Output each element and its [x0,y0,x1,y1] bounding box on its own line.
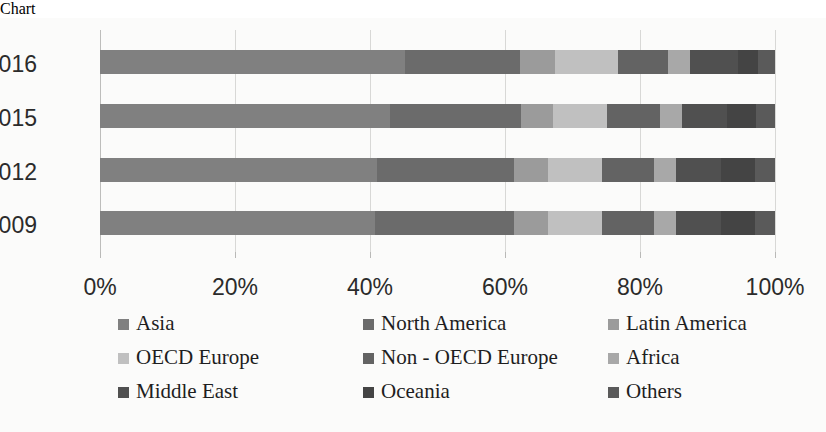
legend-item[interactable]: OECD Europe [118,347,363,368]
legend-item-label: Asia [136,313,175,334]
x-axis-tick [640,252,641,258]
bar-segment [676,211,721,235]
bar-segment [676,158,721,182]
y-axis-category-label: 2009 [0,212,37,239]
legend-item[interactable]: Middle East [118,381,363,402]
bar-segment [100,211,375,235]
bar-segment [755,158,775,182]
x-axis-label: 100% [746,274,805,301]
bar-segment [375,211,513,235]
bar-row [100,158,775,182]
bar-segment [521,104,553,128]
legend-item-label: OECD Europe [136,347,259,368]
legend-item-label: Latin America [626,313,747,334]
legend-item[interactable]: North America [363,313,608,334]
x-axis-label: 20% [212,274,258,301]
y-axis-category-label: 2012 [0,159,37,186]
bar-segment [100,158,377,182]
bar-segment [377,158,514,182]
legend-item-label: Africa [626,347,680,368]
legend-swatch-icon [118,319,129,330]
legend-swatch-icon [118,353,129,364]
bar-segment [654,158,676,182]
legend-item[interactable]: Latin America [608,313,818,334]
bar-segment [738,50,758,74]
bar-segment [520,50,555,74]
x-axis-tick [370,252,371,258]
bar-segment [555,50,618,74]
legend-swatch-icon [118,387,129,398]
bar-row [100,211,775,235]
legend-item-label: Middle East [136,381,238,402]
bar-segment [548,211,602,235]
bar-segment [514,211,548,235]
legend-item-label: Others [626,381,682,402]
bar-segment [758,50,775,74]
y-axis-category-label: 2015 [0,105,37,132]
x-axis-tick [775,252,776,258]
legend-swatch-icon [363,387,374,398]
gridline [775,30,776,252]
bar-segment [618,50,668,74]
bar-segment [607,104,660,128]
bar-segment [682,104,727,128]
x-axis-label: 40% [347,274,393,301]
bar-segment [756,104,775,128]
bar-segment [660,104,682,128]
y-axis-category-label: 2016 [0,51,37,78]
bar-segment [602,211,655,235]
x-axis-tick [100,252,101,258]
legend-item-label: Non - OECD Europe [381,347,558,368]
legend-item[interactable]: Africa [608,347,818,368]
legend-item[interactable]: Oceania [363,381,608,402]
bar-segment [100,50,405,74]
bar-segment [727,104,756,128]
legend-swatch-icon [608,319,619,330]
x-axis-tick [235,252,236,258]
bar-segment [654,211,676,235]
legend-swatch-icon [363,353,374,364]
bar-segment [721,158,755,182]
x-axis-label: 80% [617,274,663,301]
legend-item-label: North America [381,313,506,334]
bar-segment [548,158,602,182]
legend-item[interactable]: Asia [118,313,363,334]
bar-segment [602,158,655,182]
stacked-bar-chart: 0%20%40%60%80%100%2016201520122009 AsiaN… [0,18,826,432]
bar-segment [553,104,607,128]
bar-segment [721,211,755,235]
bar-row [100,104,775,128]
x-axis-tick [505,252,506,258]
bar-segment [668,50,690,74]
legend-item[interactable]: Others [608,381,818,402]
x-axis-label: 60% [482,274,528,301]
x-axis-label: 0% [83,274,116,301]
chart-legend: AsiaNorth AmericaLatin AmericaOECD Europ… [118,306,818,408]
bar-segment [390,104,520,128]
legend-item-label: Oceania [381,381,450,402]
bar-row [100,50,775,74]
plot-area: 0%20%40%60%80%100%2016201520122009 [100,30,775,252]
legend-swatch-icon [363,319,374,330]
bar-segment [100,104,390,128]
bar-segment [405,50,520,74]
legend-swatch-icon [608,387,619,398]
bar-segment [690,50,738,74]
legend-item[interactable]: Non - OECD Europe [363,347,608,368]
legend-swatch-icon [608,353,619,364]
bar-segment [514,158,548,182]
bar-segment [755,211,775,235]
